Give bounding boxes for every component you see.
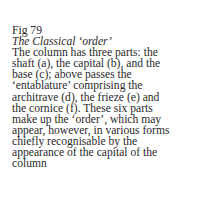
caption-line: column xyxy=(12,158,197,169)
caption-line: ‘entablature’ comprising the xyxy=(12,80,197,91)
caption-line: architrave (d), the frieze (e) and xyxy=(12,92,197,103)
figure-caption: Fig 79 The Classical ‘order’ The column … xyxy=(12,25,197,169)
